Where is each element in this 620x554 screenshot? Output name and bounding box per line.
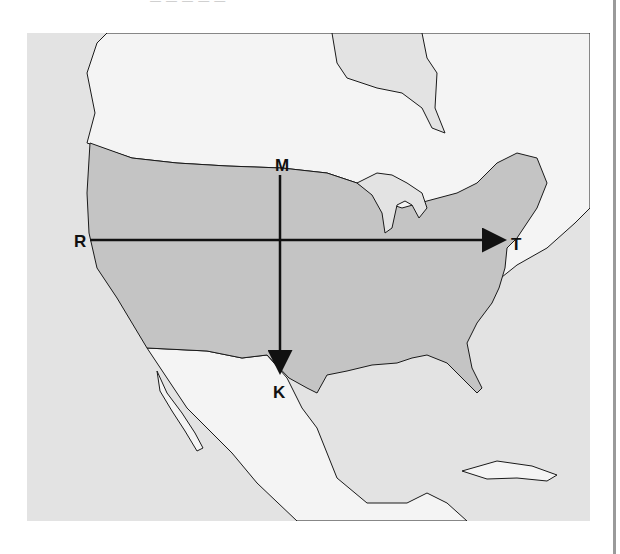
label-t: T (511, 236, 521, 253)
label-k: K (273, 384, 285, 401)
map-svg (27, 33, 590, 521)
label-r: R (74, 233, 86, 250)
cuba (462, 461, 557, 481)
map-frame (27, 33, 590, 521)
page-edge-rule (613, 0, 616, 554)
cropped-caption-text: — — — — — (150, 0, 226, 6)
label-m: M (275, 157, 289, 174)
